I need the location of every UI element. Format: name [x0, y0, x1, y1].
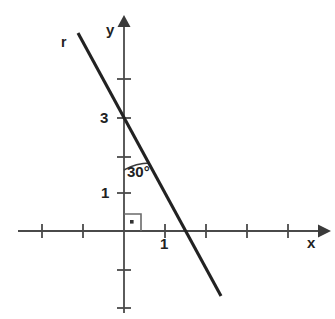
angle-label-30-degrees: 30°: [127, 164, 150, 179]
x-tick-label-1: 1: [160, 236, 168, 251]
right-angle-dot-icon: [130, 220, 134, 224]
y-axis-arrow-icon: [118, 15, 131, 27]
diagram-canvas: [0, 0, 335, 319]
x-axis-arrow-icon: [318, 225, 331, 238]
y-tick-label-3: 3: [100, 110, 108, 125]
line-r-label: r: [61, 35, 66, 49]
x-axis-group: [18, 224, 331, 238]
right-angle-marker: [124, 214, 141, 231]
y-axis-label: y: [106, 22, 114, 37]
coordinate-plane-figure: y x r 3 1 1 30°: [0, 0, 335, 319]
x-axis-label: x: [307, 235, 315, 250]
y-tick-label-1: 1: [101, 185, 109, 200]
